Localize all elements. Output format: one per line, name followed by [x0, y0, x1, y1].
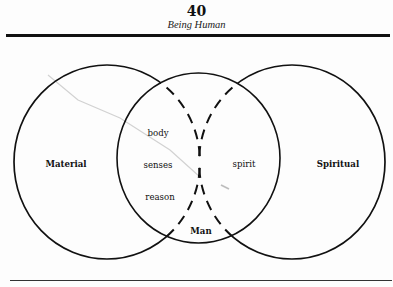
term-senses: senses [144, 160, 173, 170]
footer-rule [10, 280, 392, 281]
man-label: Man [190, 226, 212, 236]
venn-diagram: Material Man Spiritual body senses reaso… [0, 0, 393, 287]
term-spirit: spirit [233, 159, 257, 169]
term-body: body [147, 128, 168, 138]
scratch-smudge [221, 185, 229, 189]
term-reason: reason [145, 192, 175, 202]
book-page: 40 Being Human [0, 0, 393, 287]
spiritual-label: Spiritual [317, 159, 360, 169]
material-label: Material [45, 159, 87, 169]
